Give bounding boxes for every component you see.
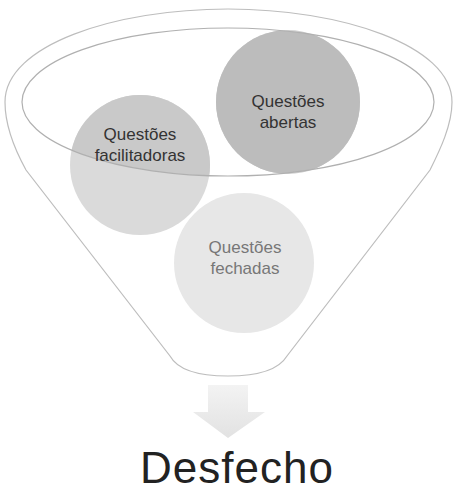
- label-fechadas: Questões fechadas: [209, 237, 282, 279]
- arrow-down-icon: [193, 385, 265, 438]
- label-line: fechadas: [209, 258, 282, 279]
- outcome-label: Desfecho: [140, 443, 334, 487]
- label-line: abertas: [252, 112, 325, 133]
- label-facilitadoras: Questões facilitadoras: [95, 124, 186, 166]
- label-line: Questões: [252, 91, 325, 112]
- label-abertas: Questões abertas: [252, 91, 325, 133]
- label-line: Questões: [209, 237, 282, 258]
- label-line: Questões: [95, 124, 186, 145]
- label-line: facilitadoras: [95, 145, 186, 166]
